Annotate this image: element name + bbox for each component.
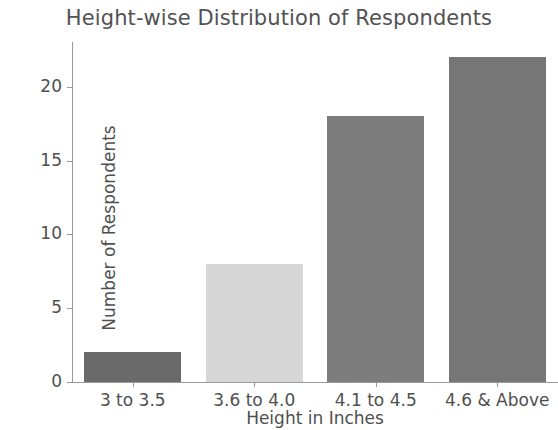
y-tick-5: 5	[0, 308, 72, 309]
y-tick-label: 10	[40, 223, 62, 244]
x-tick-label: 3 to 3.5	[63, 390, 203, 410]
chart-title: Height-wise Distribution of Respondents	[0, 6, 558, 30]
y-tick-label: 20	[40, 76, 62, 97]
y-tick-label: 15	[40, 150, 62, 171]
bar-chart-figure: Height-wise Distribution of Respondents …	[0, 0, 558, 430]
x-tick-label: 3.6 to 4.0	[184, 390, 324, 410]
y-tick-0: 0	[0, 382, 72, 383]
y-tick-15: 15	[0, 161, 72, 162]
y-tick-label: 5	[51, 297, 62, 318]
y-tick-10: 10	[0, 234, 72, 235]
x-axis-label: Height in Inches	[72, 408, 558, 428]
plot-area: Number of Respondents	[72, 42, 558, 383]
y-tick-20: 20	[0, 87, 72, 88]
y-tick-label: 0	[51, 371, 62, 392]
y-axis-label: Number of Respondents	[99, 63, 119, 393]
x-tick-label: 4.1 to 4.5	[306, 390, 446, 410]
x-tick-label: 4.6 & Above	[427, 390, 558, 410]
